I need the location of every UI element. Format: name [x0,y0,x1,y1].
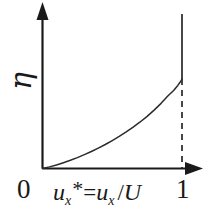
y-axis-arrowhead [37,2,49,20]
xlabel-star: * [72,176,83,201]
xlabel-var: u [53,179,65,205]
xlabel-equals: = [83,180,96,205]
xlabel-var-subscript: x [65,193,71,208]
xlabel-numerator-subscript: x [108,193,114,208]
y-axis-label: η [0,64,44,98]
data-curve [43,79,183,169]
x-axis-tick-one: 1 [176,176,190,203]
x-axis-tick-zero: 0 [17,176,31,203]
xlabel-numerator: u [96,179,108,205]
velocity-profile-figure: η 0 1 ux*=ux/U [0,0,210,220]
xlabel-denominator: U [124,179,141,205]
x-axis-label: ux*=ux/U [53,178,141,208]
